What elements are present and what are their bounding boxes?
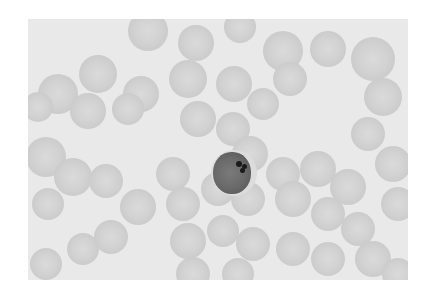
red-blood-cell — [94, 220, 128, 254]
red-blood-cell — [310, 31, 346, 67]
red-blood-cell — [32, 188, 64, 220]
cell-nucleus — [213, 152, 251, 194]
red-blood-cell — [70, 93, 106, 129]
red-blood-cell — [30, 248, 62, 280]
blood-smear-micrograph — [28, 19, 408, 280]
red-blood-cell — [120, 189, 156, 225]
red-blood-cell — [156, 157, 190, 191]
red-blood-cell — [351, 37, 395, 81]
red-blood-cell — [178, 25, 214, 61]
red-blood-cell — [128, 19, 168, 51]
red-blood-cell — [247, 88, 279, 120]
red-blood-cell — [351, 117, 385, 151]
red-blood-cell — [275, 181, 311, 217]
red-blood-cell — [79, 55, 117, 93]
red-blood-cell — [375, 146, 408, 182]
red-blood-cell — [169, 60, 207, 98]
red-blood-cell — [166, 187, 200, 221]
red-blood-cell — [222, 258, 254, 280]
red-blood-cell — [236, 227, 270, 261]
red-blood-cell — [89, 164, 123, 198]
red-blood-cell — [364, 78, 402, 116]
red-blood-cell — [28, 92, 53, 122]
red-blood-cell — [276, 232, 310, 266]
red-blood-cell — [112, 93, 144, 125]
red-blood-cell — [273, 62, 307, 96]
red-blood-cell — [311, 242, 345, 276]
red-blood-cell — [180, 101, 216, 137]
red-blood-cell — [176, 257, 210, 280]
inclusion-body — [240, 168, 245, 173]
red-blood-cell — [54, 158, 92, 196]
red-blood-cell — [311, 197, 345, 231]
red-blood-cell — [170, 223, 206, 259]
red-blood-cell — [381, 187, 408, 221]
red-blood-cell — [207, 215, 239, 247]
red-blood-cell — [224, 19, 256, 43]
red-blood-cell — [216, 66, 252, 102]
